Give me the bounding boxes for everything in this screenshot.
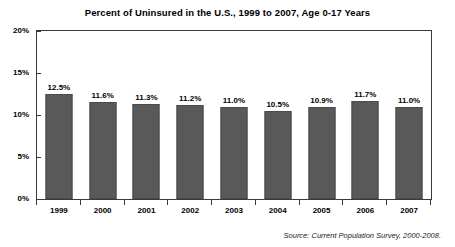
x-axis-tick-mark	[124, 200, 125, 205]
x-axis-tick-mark	[430, 200, 431, 205]
x-axis-ticks	[36, 200, 432, 205]
bar	[89, 102, 116, 199]
y-axis-tick-mark	[36, 199, 41, 200]
x-axis: 199920002001200220032004200520062007	[37, 206, 431, 220]
bar-group: 11.2%	[168, 31, 212, 199]
bar-value-label: 11.0%	[398, 96, 420, 105]
chart-figure: Percent of Uninsured in the U.S., 1999 t…	[0, 0, 455, 247]
x-axis-tick-label: 2001	[138, 206, 156, 216]
x-axis-tick-label: 2006	[356, 206, 374, 216]
y-axis-tick-mark	[36, 31, 41, 32]
bar-value-label: 11.3%	[135, 93, 157, 102]
y-axis-tick-label: 15%	[13, 69, 29, 77]
source-note: Source: Current Population Survey, 2000-…	[0, 231, 441, 241]
x-axis-tick-mark	[255, 200, 256, 205]
bars-group: 12.5%11.6%11.3%11.2%11.0%10.5%10.9%11.7%…	[37, 31, 431, 199]
y-axis-tick-mark	[36, 157, 41, 158]
y-axis-tick-label: 20%	[13, 27, 29, 35]
x-axis-tick-mark	[299, 200, 300, 205]
bar-group: 11.7%	[343, 31, 387, 199]
y-axis-tick-mark	[36, 115, 41, 116]
bar-value-label: 10.5%	[266, 100, 289, 109]
x-axis-tick-label: 1999	[50, 206, 68, 216]
bar	[177, 105, 204, 199]
bar	[45, 94, 72, 199]
x-axis-tick-label: 2002	[181, 206, 199, 216]
bar	[264, 111, 291, 199]
bar-group: 11.0%	[212, 31, 256, 199]
bar	[308, 107, 335, 199]
y-axis-tick-label: 10%	[13, 111, 29, 119]
bar-value-label: 12.5%	[48, 83, 71, 92]
bar	[133, 104, 160, 199]
bar-group: 11.0%	[387, 31, 431, 199]
bar	[396, 107, 423, 199]
bar-group: 10.5%	[256, 31, 300, 199]
x-axis-tick-mark	[342, 200, 343, 205]
bar	[220, 107, 247, 199]
y-axis-tick-mark	[36, 73, 41, 74]
x-axis-tick-label: 2005	[313, 206, 331, 216]
bar-value-label: 11.6%	[92, 91, 114, 100]
bar-value-label: 11.2%	[179, 94, 201, 103]
x-axis-tick-label: 2007	[400, 206, 418, 216]
x-axis-tick-mark	[386, 200, 387, 205]
bar-group: 11.6%	[81, 31, 125, 199]
bar-group: 12.5%	[37, 31, 81, 199]
bar-value-label: 10.9%	[310, 96, 333, 105]
x-axis-tick-mark	[36, 200, 37, 205]
bar-group: 10.9%	[300, 31, 344, 199]
x-axis-tick-mark	[80, 200, 81, 205]
x-axis-tick-label: 2000	[94, 206, 112, 216]
x-axis-tick-label: 2004	[269, 206, 287, 216]
chart-title: Percent of Uninsured in the U.S., 1999 t…	[0, 7, 455, 19]
x-axis-tick-label: 2003	[225, 206, 243, 216]
bar-value-label: 11.7%	[354, 90, 376, 99]
y-axis: 0%5%10%15%20%	[0, 30, 33, 200]
bar-group: 11.3%	[125, 31, 169, 199]
x-axis-tick-mark	[167, 200, 168, 205]
x-axis-tick-mark	[211, 200, 212, 205]
bar-value-label: 11.0%	[223, 96, 245, 105]
y-axis-tick-label: 0%	[17, 195, 29, 203]
bar	[352, 101, 379, 199]
y-axis-tick-label: 5%	[17, 153, 29, 161]
